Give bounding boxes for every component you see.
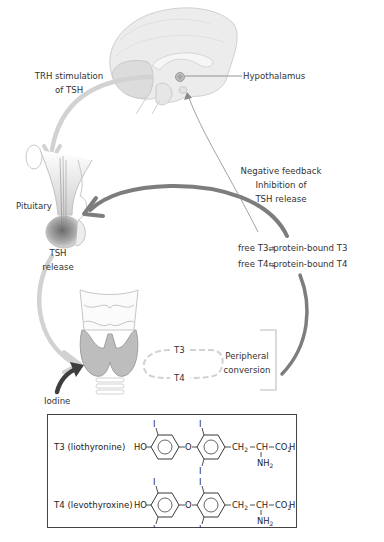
brain-illustration [110,8,237,114]
t3-ring-b [197,435,225,459]
negative-feedback-line-3: TSH release [236,192,326,206]
pituitary-illustration [26,145,92,248]
t4-iodine-a2: I [153,524,155,528]
t4-ring-a [151,493,179,517]
t3-amine: NH2 [257,458,274,469]
trh-label-line-1: TRH stimulation [24,69,114,83]
iodine-label: Iodine [44,394,70,408]
peripheral-line-1: Peripheral [222,349,272,363]
hypothalamus-feedback-line [184,92,258,232]
negative-feedback-label: Negative feedback Inhibition of TSH rele… [236,164,326,206]
iodine-arrow [57,362,84,392]
hypothalamus-dot [176,73,185,82]
pituitary-label: Pituitary [16,199,52,213]
t3-ho: HO [134,442,147,452]
negative-feedback-line-1: Negative feedback [236,164,326,178]
t4-ring-b [197,493,225,517]
peripheral-conversion-label: Peripheral conversion [222,349,272,377]
equilibrium-t3: free T3⇄protein-bound T3 [238,241,347,256]
t3-side-chain: CH2 [232,442,248,453]
peripheral-line-2: conversion [222,363,272,377]
tsh-release-label: TSH release [40,246,76,274]
t4-label: T4 [174,371,185,385]
trh-label-line-2: of TSH [24,83,114,97]
t3-ring-a [151,435,179,459]
t3-carboxyl-h: H [289,442,295,452]
tsh-release-line-2: release [40,260,76,274]
t3-iodine-b1: I [199,419,201,429]
bound-t3-text: protein-bound T3 [273,243,347,253]
chemical-structures-box: T3 (liothyronine) T4 (levothyroxine) HO … [47,414,297,528]
t4-carboxyl-h: H [289,500,295,510]
t4-structure: HO I I O I I CH2 CH CO2 H NH2 [134,477,295,528]
t4-ho: HO [134,500,147,510]
t4-iodine-b2: I [199,524,201,528]
t3-iodine-b2: I [199,466,201,476]
t4-side-chain: CH2 [232,500,248,511]
t4-iodine-b1: I [199,477,201,487]
free-t4-text: free T4 [238,259,268,269]
negative-feedback-line-2: Inhibition of [236,178,326,192]
t3-iodine-a1: I [153,419,155,429]
t3-ether-o: O [185,442,192,452]
hypothalamus-label: Hypothalamus [243,69,305,83]
bound-t4-text: protein-bound T4 [273,259,347,269]
t3-ch: CH [256,442,268,452]
t3-structure: HO I O I I CH2 CH CO2 H NH2 [134,419,295,476]
t4-ether-o: O [185,500,192,510]
thyroid-illustration [80,290,138,394]
tsh-release-line-1: TSH [40,246,76,260]
equilibrium-t4: free T4⇆protein-bound T4 [238,257,347,272]
free-t3-text: free T3 [238,243,268,253]
t3-label: T3 [174,343,185,357]
t4-amine: NH2 [257,516,274,527]
t4-ch: CH [256,500,268,510]
trh-stimulation-label: TRH stimulation of TSH [24,69,114,97]
t4-iodine-a1: I [153,477,155,487]
negative-feedback-arrow [84,186,307,374]
structure-drawings: HO I O I I CH2 CH CO2 H NH2 [47,414,297,528]
